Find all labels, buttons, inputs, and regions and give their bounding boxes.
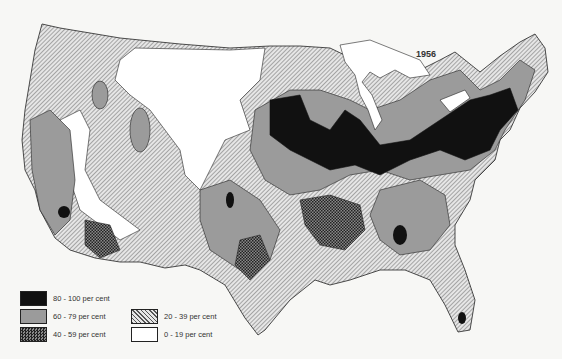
region-60-79-west <box>30 110 75 235</box>
choropleth-map <box>0 0 562 359</box>
map-year-label: 1956 <box>416 49 436 59</box>
